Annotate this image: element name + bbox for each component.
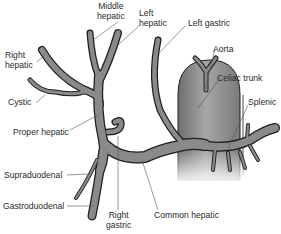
label-right-gastric: Right gastric [106,210,131,230]
label-right-gastric-line2: gastric [106,220,131,230]
label-middle-hepatic-line2: hepatic [97,11,125,21]
label-middle-hepatic-line1: Middle [97,1,125,11]
label-left-hepatic-line1: Left [139,8,167,18]
label-aorta: Aorta [213,44,234,54]
label-splenic: Splenic [248,97,276,107]
label-left-hepatic-line2: hepatic [139,18,167,28]
label-common-hepatic: Common hepatic [154,210,219,220]
label-proper-hepatic: Proper hepatic [13,127,69,137]
label-cystic: Cystic [8,97,31,107]
label-left-hepatic: Left hepatic [139,8,167,28]
vessel-illustration [0,0,281,234]
label-right-gastric-line1: Right [106,210,131,220]
label-left-gastric: Left gastric [188,18,230,28]
label-gastroduodenal: Gastroduodenal [3,201,64,211]
label-middle-hepatic: Middle hepatic [97,1,125,21]
label-supraduodenal: Supraduodenal [4,170,62,180]
label-right-hepatic-line1: Right [5,50,33,60]
celiac-arterial-diagram: Middle hepatic Left hepatic Left gastric… [0,0,281,234]
label-celiac-trunk: Celiac trunk [217,73,262,83]
label-right-hepatic: Right hepatic [5,50,33,70]
label-right-hepatic-line2: hepatic [5,60,33,70]
